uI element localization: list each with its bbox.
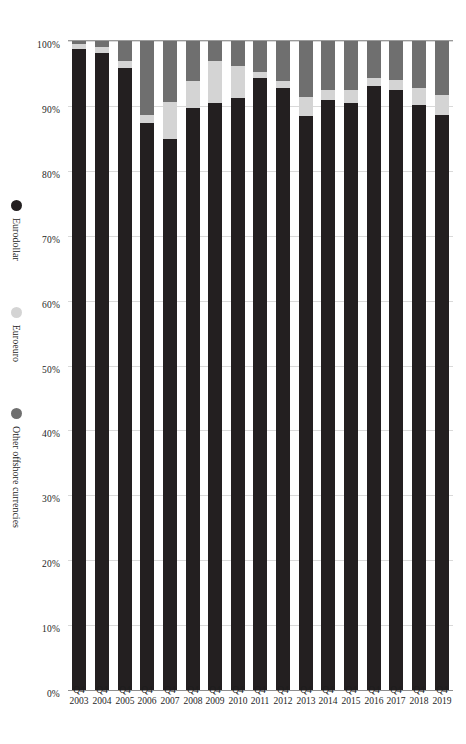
category-label-part: 2012 xyxy=(274,695,293,706)
x-tick-label-90: 90% xyxy=(42,105,60,115)
category-label: Q42003 xyxy=(70,685,89,706)
bar-segment-euroeuro xyxy=(389,80,403,90)
category-label-part: 2006 xyxy=(138,695,157,706)
bar-segment-offshore xyxy=(186,41,200,81)
category-label-part: 2010 xyxy=(228,695,247,706)
bar-segment-euroeuro xyxy=(367,78,381,86)
category-label-part: 2003 xyxy=(70,695,89,706)
plot-area xyxy=(68,40,453,689)
legend-item[interactable]: Eurodollar xyxy=(12,200,23,261)
x-tick-label-100: 100% xyxy=(37,40,60,50)
bar-segment-euroeuro xyxy=(412,88,426,105)
bar-segment-euroeuro xyxy=(321,90,335,100)
legend-swatch-icon xyxy=(12,408,23,419)
category-label-part: Q4 xyxy=(296,685,315,696)
bar-segment-offshore xyxy=(208,41,222,61)
bar-segment-offshore xyxy=(412,41,426,88)
x-tick-label-50: 50% xyxy=(42,365,60,375)
legend-label: Other offshore currencies xyxy=(12,426,23,528)
category-label: Q42011 xyxy=(251,685,270,706)
bar-segment-offshore xyxy=(299,41,313,97)
category-label: Q42009 xyxy=(206,685,225,706)
bar-segment-offshore xyxy=(276,41,290,81)
bar-row xyxy=(367,41,381,689)
category-label-part: Q4 xyxy=(160,685,179,696)
bar-segment-eurodollar xyxy=(208,103,222,690)
category-label-part: Q4 xyxy=(251,685,270,696)
bar-row xyxy=(186,41,200,689)
bar-segment-euroeuro xyxy=(140,115,154,123)
bar-row xyxy=(321,41,335,689)
bar-segment-eurodollar xyxy=(118,68,132,690)
category-label-part: Q4 xyxy=(228,685,247,696)
bar-segment-euroeuro xyxy=(163,102,177,139)
category-label: Q42016 xyxy=(364,685,383,706)
category-label-part: 2016 xyxy=(364,695,383,706)
category-label-part: 2015 xyxy=(342,695,361,706)
bar-segment-eurodollar xyxy=(231,98,245,690)
category-label: Q42005 xyxy=(115,685,134,706)
category-label-part: 2007 xyxy=(160,695,179,706)
bar-row xyxy=(276,41,290,689)
bar-row xyxy=(299,41,313,689)
bar-row xyxy=(140,41,154,689)
category-label-part: Q4 xyxy=(206,685,225,696)
bar-segment-eurodollar xyxy=(321,100,335,690)
bar-segment-eurodollar xyxy=(140,123,154,690)
stacked-bar-chart: 100%90%80%70%60%50%40%30%20%10%0% Q42003… xyxy=(0,0,466,744)
category-label-part: 2013 xyxy=(296,695,315,706)
bar-segment-offshore xyxy=(254,41,268,72)
bar-row xyxy=(72,41,86,689)
bar-segment-offshore xyxy=(118,41,132,61)
category-label: Q42004 xyxy=(92,685,111,706)
bar-row xyxy=(163,41,177,689)
category-label: Q42014 xyxy=(319,685,338,706)
bar-segment-eurodollar xyxy=(276,88,290,690)
bar-segment-offshore xyxy=(435,41,449,95)
bar-segment-eurodollar xyxy=(435,115,449,690)
legend-swatch-icon xyxy=(12,200,23,211)
category-label-part: Q4 xyxy=(432,685,451,696)
bar-segment-euroeuro xyxy=(231,66,245,98)
bar-segment-euroeuro xyxy=(344,90,358,104)
category-label: Q42018 xyxy=(410,685,429,706)
legend-item[interactable]: Euroeuro xyxy=(12,307,23,362)
x-tick-label-30: 30% xyxy=(42,494,60,504)
category-label-part: 2004 xyxy=(92,695,111,706)
bar-segment-euroeuro xyxy=(186,81,200,108)
bar-segment-offshore xyxy=(140,41,154,115)
bar-row xyxy=(231,41,245,689)
x-tick-label-40: 40% xyxy=(42,429,60,439)
category-label-part: Q4 xyxy=(274,685,293,696)
category-label: Q42019 xyxy=(432,685,451,706)
category-label-part: Q4 xyxy=(70,685,89,696)
legend-item[interactable]: Other offshore currencies xyxy=(12,408,23,528)
bar-segment-eurodollar xyxy=(367,86,381,690)
legend-label: Euroeuro xyxy=(12,325,23,362)
bar-segment-eurodollar xyxy=(254,78,268,690)
bar-segment-eurodollar xyxy=(412,105,426,690)
category-label-part: 2014 xyxy=(319,695,338,706)
category-label-part: Q4 xyxy=(410,685,429,696)
category-label-part: 2017 xyxy=(387,695,406,706)
category-label-part: Q4 xyxy=(138,685,157,696)
category-label: Q42015 xyxy=(342,685,361,706)
bar-segment-eurodollar xyxy=(389,90,403,690)
bar-segment-euroeuro xyxy=(299,97,313,116)
category-label-part: Q4 xyxy=(342,685,361,696)
category-label-part: Q4 xyxy=(319,685,338,696)
category-label-part: Q4 xyxy=(183,685,202,696)
category-label-part: Q4 xyxy=(387,685,406,696)
bar-segment-eurodollar xyxy=(344,103,358,690)
bar-row xyxy=(254,41,268,689)
bar-segment-euroeuro xyxy=(435,95,449,115)
x-tick-label-20: 20% xyxy=(42,559,60,569)
bar-segment-eurodollar xyxy=(186,108,200,690)
x-tick-label-60: 60% xyxy=(42,300,60,310)
bar-segment-euroeuro xyxy=(208,61,222,103)
category-label-part: Q4 xyxy=(364,685,383,696)
category-label: Q42013 xyxy=(296,685,315,706)
bar-segment-offshore xyxy=(367,41,381,78)
rotated-figure-wrapper: 100%90%80%70%60%50%40%30%20%10%0% Q42003… xyxy=(0,0,466,744)
bar-segment-eurodollar xyxy=(299,116,313,690)
